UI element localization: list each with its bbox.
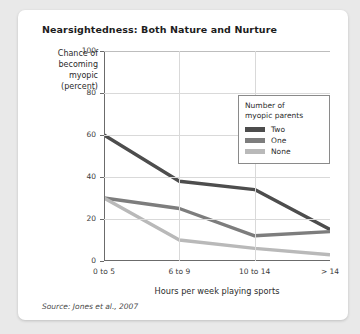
y-tick-mark [100, 135, 104, 136]
y-tick-mark [100, 177, 104, 178]
gridline-horizontal [104, 93, 330, 94]
legend-entry-label: Two [271, 125, 285, 134]
legend-swatch-icon [245, 127, 265, 132]
y-tick-label: 20 [18, 214, 96, 223]
y-tick-label: 0 [18, 256, 96, 265]
legend-entry-label: One [271, 136, 286, 145]
x-axis-label: Hours per week playing sports [104, 286, 330, 296]
legend-swatch-icon [245, 138, 265, 143]
legend-entry-none: None [245, 146, 323, 157]
legend-title-line-2: myopic parents [245, 111, 303, 120]
gridline-vertical [179, 51, 180, 261]
plot-top-rule [104, 51, 330, 52]
x-tick-label: 0 to 5 [74, 267, 134, 276]
gridline-horizontal [104, 177, 330, 178]
legend-entries: TwoOneNone [245, 124, 323, 157]
legend-title-line-1: Number of [245, 101, 285, 110]
legend-entry-one: One [245, 135, 323, 146]
legend-swatch-icon [245, 149, 265, 154]
y-tick-mark [100, 261, 104, 262]
y-tick-mark [100, 93, 104, 94]
legend-entry-two: Two [245, 124, 323, 135]
y-tick-mark [100, 219, 104, 220]
source-note: Source: Jones et al., 2007 [42, 302, 138, 311]
y-tick-label: 60 [18, 130, 96, 139]
line-chart: 020406080100 0 to 56 to 910 to 14> 14 Ho… [18, 10, 348, 320]
y-tick-mark [100, 51, 104, 52]
y-tick-label: 100 [18, 46, 96, 55]
y-tick-label: 80 [18, 88, 96, 97]
chart-legend: Number of myopic parents TwoOneNone [238, 95, 330, 164]
legend-entry-label: None [271, 147, 291, 156]
legend-title: Number of myopic parents [245, 101, 323, 121]
x-tick-label: 6 to 9 [149, 267, 209, 276]
x-tick-label: 10 to 14 [225, 267, 285, 276]
x-tick-label: > 14 [300, 267, 348, 276]
y-tick-label: 40 [18, 172, 96, 181]
gridline-horizontal [104, 219, 330, 220]
chart-card: Nearsightedness: Both Nature and Nurture… [18, 10, 348, 320]
